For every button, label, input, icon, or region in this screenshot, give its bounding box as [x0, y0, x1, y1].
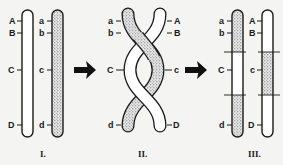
- locus-label: c: [250, 65, 255, 75]
- arrow-right-icon: [185, 61, 207, 79]
- locus-label: c: [174, 65, 179, 75]
- stage-numeral: III.: [248, 149, 261, 159]
- locus-label: C: [218, 65, 225, 75]
- locus-label: D: [248, 120, 255, 130]
- locus-label: A: [249, 16, 256, 26]
- stage-1: A B C D a b c d I.: [8, 10, 63, 159]
- chromatid-recombinant-left: [232, 10, 243, 137]
- locus-label: B: [249, 28, 256, 38]
- stage-numeral: I.: [40, 149, 46, 159]
- locus-label: A: [174, 16, 181, 26]
- stage-numeral: II.: [138, 149, 147, 159]
- chromatid-white: [22, 10, 33, 137]
- chromatid-recombinant-right: [262, 10, 273, 137]
- chromatid-dotted: [52, 10, 63, 137]
- locus-label: B: [174, 28, 181, 38]
- locus-label: c: [39, 65, 44, 75]
- locus-label: D: [8, 120, 15, 130]
- locus-label: D: [173, 120, 180, 130]
- locus-label: A: [9, 16, 16, 26]
- locus-label: C: [107, 65, 114, 75]
- stage-2: a b C d A B c D II.: [107, 14, 181, 159]
- locus-label: a: [39, 16, 45, 26]
- locus-label: b: [108, 28, 114, 38]
- locus-label: a: [108, 16, 114, 26]
- locus-label: b: [219, 28, 225, 38]
- locus-label: a: [219, 16, 225, 26]
- locus-label: d: [39, 120, 45, 130]
- locus-label: d: [219, 120, 225, 130]
- locus-label: C: [8, 65, 15, 75]
- locus-label: d: [108, 120, 114, 130]
- locus-label: b: [39, 28, 45, 38]
- arrow-right-icon: [74, 61, 96, 79]
- locus-label: B: [9, 28, 16, 38]
- stage-3: a b C d A B c D III.: [218, 10, 280, 159]
- crossover-diagram: A B C D a b c d I. a b C d A B: [0, 0, 283, 165]
